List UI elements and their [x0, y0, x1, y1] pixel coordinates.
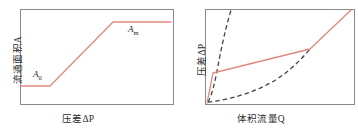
flow-area-curve: [21, 22, 171, 86]
chart-panel-right: 压差ΔP 体积流量Q: [179, 0, 358, 131]
shallow-dashed-curve: [208, 49, 310, 102]
operating-line: [207, 10, 351, 103]
steep-dashed-curve: [208, 10, 231, 102]
x-axis-label-left: 压差ΔP: [62, 111, 94, 125]
label-a0: A0: [33, 69, 42, 81]
label-a0-sub: 0: [39, 74, 42, 81]
y-axis-label-right: 压差ΔP: [194, 44, 208, 76]
y-axis-label-left: 流通面积A: [10, 36, 24, 84]
label-am-sub: m: [134, 29, 139, 36]
figure-container: A0 Am 流通面积A 压差ΔP 压差ΔP 体积流量Q: [0, 0, 358, 131]
chart-panel-left: A0 Am 流通面积A 压差ΔP: [0, 0, 179, 131]
x-axis-label-right: 体积流量Q: [237, 111, 285, 125]
label-am: Am: [128, 24, 139, 36]
